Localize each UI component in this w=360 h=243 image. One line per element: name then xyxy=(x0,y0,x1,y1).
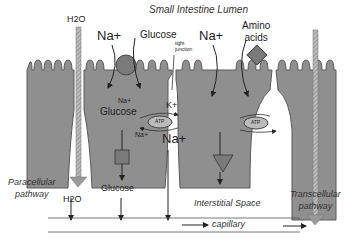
cell-na-label: Na+ xyxy=(118,97,131,104)
glucose-bottom-label: Glucose xyxy=(101,184,134,193)
glucose-top-label: Glucose xyxy=(140,30,177,40)
enterocyte-cell-1 xyxy=(27,60,74,188)
na-left-label: Na+ xyxy=(97,29,121,42)
capillary-label: capillary xyxy=(212,220,245,229)
h2o-bottom-label: H2O xyxy=(63,195,82,204)
cell-na-label-2: Na+ xyxy=(135,131,148,138)
lumen-title: Small Intestine Lumen xyxy=(149,5,248,15)
glut-transporter-icon xyxy=(115,150,129,164)
transcellular-pathway-label: Transcellularpathway xyxy=(290,188,341,212)
cell-glucose-label: Glucose xyxy=(100,107,137,117)
h2o-top-label: H2O xyxy=(67,15,86,24)
k-plus-label: K+ xyxy=(166,101,177,110)
intestinal-absorption-diagram: Small Intestine Lumen H2O Na+ Glucose ti… xyxy=(0,0,360,243)
amino-acids-label: Aminoacids xyxy=(242,20,270,44)
na-big-label: Na+ xyxy=(162,132,186,145)
na-right-label: Na+ xyxy=(199,29,223,42)
tight-junction-label: tightjunction xyxy=(175,40,192,52)
interstitial-space-label: Interstitial Space xyxy=(194,199,261,208)
paracellular-arrow-icon xyxy=(76,27,81,177)
paracellular-pathway-label: Paracellularpathway xyxy=(8,176,56,200)
atp-label-1: ATP xyxy=(155,119,164,124)
atp-label-2: ATP xyxy=(251,120,260,125)
